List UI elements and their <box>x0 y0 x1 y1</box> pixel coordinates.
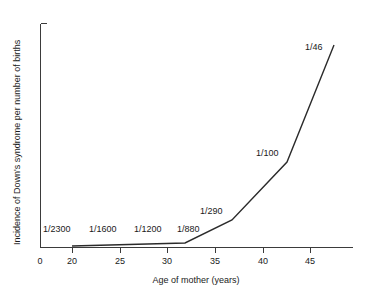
x-tick-label-25: 25 <box>115 256 125 266</box>
chart-figure: 0 20 25 30 35 40 45 Age of mother (years… <box>0 0 366 292</box>
data-label-1-1600: 1/1600 <box>89 224 117 234</box>
x-tick-label-40: 40 <box>258 256 268 266</box>
x-tick-label-35: 35 <box>210 256 220 266</box>
data-label-1-880: 1/880 <box>177 224 200 234</box>
data-label-1-1200: 1/1200 <box>134 224 162 234</box>
downs-syndrome-incidence-line-chart: 0 20 25 30 35 40 45 Age of mother (years… <box>0 0 366 292</box>
y-axis-title: Incidence of Down's syndrome per number … <box>12 39 22 245</box>
data-label-1-2300: 1/2300 <box>43 224 71 234</box>
x-tick-label-30: 30 <box>162 256 172 266</box>
data-label-1-46: 1/46 <box>305 42 323 52</box>
x-tick-label-45: 45 <box>305 256 315 266</box>
x-tick-label-20: 20 <box>67 256 77 266</box>
data-label-1-100: 1/100 <box>256 148 279 158</box>
x-tick-label-0: 0 <box>37 256 42 266</box>
x-axis-title: Age of mother (years) <box>152 275 239 285</box>
data-label-1-290: 1/290 <box>200 206 223 216</box>
